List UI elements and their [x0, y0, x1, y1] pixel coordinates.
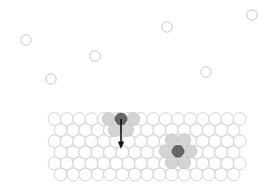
lattice-atom: [79, 168, 92, 181]
lattice-atom: [233, 135, 246, 148]
gas-atom: [201, 67, 211, 77]
lattice-atom: [79, 146, 92, 159]
lattice-atom: [48, 135, 61, 148]
lattice-atom: [159, 113, 172, 126]
shaded-neighbour-atom: [165, 134, 178, 147]
shaded-neighbour-atom: [108, 124, 121, 137]
lattice-atom: [73, 135, 86, 148]
lattice-atom: [116, 146, 129, 159]
lattice-atom: [73, 157, 86, 170]
lattice-atom: [104, 168, 117, 181]
lattice-atom: [190, 168, 203, 181]
lattice-atom: [147, 113, 160, 126]
lattice-atom: [73, 113, 86, 126]
lattice-atom: [227, 168, 240, 181]
lattice-atom: [54, 124, 67, 137]
lattice-atom: [153, 168, 166, 181]
shaded-neighbour-atom: [121, 124, 134, 137]
lattice-atom: [98, 135, 111, 148]
lattice-atom: [79, 124, 92, 137]
lattice-atom: [221, 113, 234, 126]
lattice-atom: [60, 157, 73, 170]
lattice-atom: [135, 135, 148, 148]
lattice-atom: [209, 135, 222, 148]
shaded-neighbour-atom: [184, 145, 197, 158]
lattice-atom: [141, 168, 154, 181]
lattice-atom: [202, 146, 215, 159]
gas-atom: [90, 51, 100, 61]
gas-atom: [21, 35, 31, 45]
lattice-atom: [135, 157, 148, 170]
lattice-atom: [85, 157, 98, 170]
lattice-atom: [91, 124, 104, 137]
gas-atom: [46, 74, 56, 84]
lattice-atom: [91, 146, 104, 159]
lattice-atom: [184, 113, 197, 126]
lattice-atom: [196, 113, 209, 126]
lattice-atom: [209, 157, 222, 170]
figure-canvas: [0, 0, 271, 192]
lattice-atom-group: [48, 113, 246, 181]
lattice-atom: [60, 113, 73, 126]
lattice-atom: [128, 168, 141, 181]
lattice-atom: [227, 124, 240, 137]
lattice-atom: [221, 157, 234, 170]
lattice-atom: [85, 135, 98, 148]
lattice-atom: [48, 113, 61, 126]
lattice-atom: [178, 168, 191, 181]
gas-atom: [247, 10, 257, 20]
lattice-atom: [128, 146, 141, 159]
lattice-atom: [202, 168, 215, 181]
lattice-atom: [54, 168, 67, 181]
lattice-atom: [67, 146, 80, 159]
lattice-atom: [116, 168, 129, 181]
lattice-atom: [98, 157, 111, 170]
lattice-atom: [141, 124, 154, 137]
lattice-atom: [122, 157, 135, 170]
lattice-atom: [196, 157, 209, 170]
dark-atom-substitutional-atom: [172, 145, 184, 157]
lattice-atom: [215, 168, 228, 181]
lattice-atom: [54, 146, 67, 159]
lattice-atom: [147, 157, 160, 170]
lattice-atom: [67, 124, 80, 137]
lattice-atom: [202, 124, 215, 137]
gas-atom: [162, 22, 172, 32]
gas-atom-group: [21, 10, 257, 84]
lattice-atom: [48, 157, 61, 170]
lattice-atom: [215, 146, 228, 159]
lattice-atom: [172, 113, 185, 126]
shaded-neighbour-atom: [178, 134, 191, 147]
shaded-neighbour-atom: [159, 145, 172, 158]
lattice-atom: [110, 157, 123, 170]
lattice-atom: [209, 113, 222, 126]
shaded-neighbour-atom: [178, 156, 191, 169]
lattice-diagram: [0, 0, 271, 192]
lattice-atom: [91, 168, 104, 181]
lattice-atom: [190, 124, 203, 137]
lattice-atom: [85, 113, 98, 126]
lattice-atom: [233, 113, 246, 126]
shaded-neighbour-atom: [102, 113, 115, 126]
shaded-neighbour-atom: [127, 113, 140, 126]
lattice-atom: [233, 157, 246, 170]
lattice-atom: [196, 135, 209, 148]
lattice-atom: [147, 135, 160, 148]
lattice-atom: [215, 124, 228, 137]
lattice-atom: [153, 124, 166, 137]
lattice-atom: [141, 146, 154, 159]
lattice-atom: [221, 135, 234, 148]
lattice-atom: [67, 168, 80, 181]
lattice-atom: [165, 168, 178, 181]
lattice-atom: [227, 146, 240, 159]
shaded-neighbour-atom: [165, 156, 178, 169]
lattice-atom: [60, 135, 73, 148]
lattice-atom: [104, 146, 117, 159]
